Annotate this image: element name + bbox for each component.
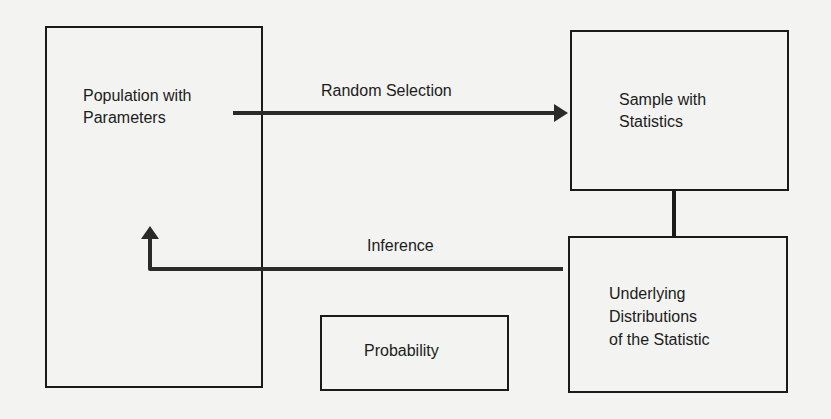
underlying-label-line-3: of the Statistic xyxy=(609,328,710,351)
population-label: Population with Parameters xyxy=(83,85,192,129)
population-label-line-2: Parameters xyxy=(83,107,192,129)
random-selection-arrow xyxy=(233,104,568,122)
population-box xyxy=(45,26,263,388)
sample-label: Sample with Statistics xyxy=(619,89,706,133)
underlying-distributions-label: Underlying Distributions of the Statisti… xyxy=(609,282,710,351)
sample-label-line-2: Statistics xyxy=(619,111,706,133)
sample-label-line-1: Sample with xyxy=(619,89,706,111)
probability-label: Probability xyxy=(364,340,439,362)
underlying-label-line-2: Distributions xyxy=(609,305,710,328)
inference-label: Inference xyxy=(367,235,434,257)
random-selection-label: Random Selection xyxy=(321,80,452,102)
population-label-line-1: Population with xyxy=(83,85,192,107)
underlying-label-line-1: Underlying xyxy=(609,282,710,305)
